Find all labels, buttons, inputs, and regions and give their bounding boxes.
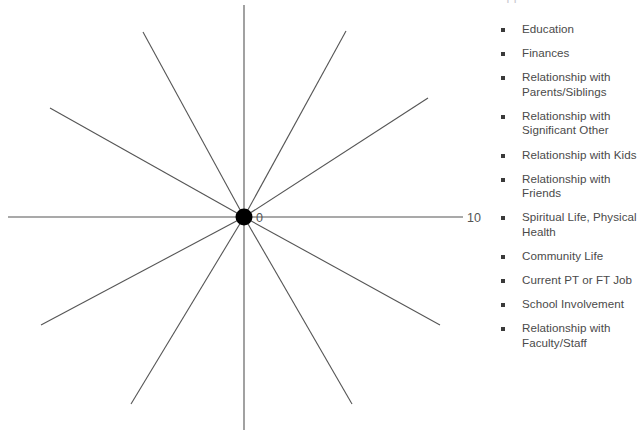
spoke-axis-12 bbox=[244, 217, 440, 325]
legend-item[interactable]: Relationship with Friends bbox=[492, 172, 638, 201]
legend-item-label: Relationship with Significant Other bbox=[522, 109, 638, 138]
legend-item-label: Relationship with Kids bbox=[522, 148, 638, 163]
origin-dot bbox=[236, 209, 253, 226]
legend-item-label: Education bbox=[522, 22, 638, 37]
legend-item-label: Relationship with Parents/Siblings bbox=[522, 70, 638, 99]
bullet-icon bbox=[501, 115, 505, 119]
chart-legend: Education Finances Relationship with Par… bbox=[492, 0, 638, 434]
spoke-axis-3 bbox=[244, 31, 346, 217]
legend-item-label: Spiritual Life, Physical Health bbox=[522, 210, 638, 239]
spoke-axis-6 bbox=[50, 108, 244, 217]
spider-chart-panel: 0 10 bbox=[0, 0, 492, 434]
legend-item[interactable]: Community Life bbox=[492, 249, 638, 264]
legend-item-label: Relationship with Faculty/Staff bbox=[522, 321, 638, 350]
legend-item[interactable]: School Involvement bbox=[492, 297, 638, 312]
legend-item[interactable]: Relationship with Significant Other bbox=[492, 109, 638, 138]
legend-item-label: Current PT or FT Job bbox=[522, 273, 638, 288]
legend-item[interactable]: Relationship with Faculty/Staff bbox=[492, 321, 638, 350]
legend-item[interactable]: Finances bbox=[492, 46, 638, 61]
bullet-icon bbox=[501, 154, 505, 158]
chart-page: Appendix A: Life Balance Wheel 0 10 bbox=[0, 0, 638, 434]
bullet-icon bbox=[501, 76, 505, 80]
bullet-icon bbox=[501, 303, 505, 307]
legend-item-label: Relationship with Friends bbox=[522, 172, 638, 201]
spoke-axis-9 bbox=[131, 217, 244, 404]
spider-chart-svg: 0 10 bbox=[0, 0, 492, 434]
spoke-group bbox=[8, 5, 463, 430]
spoke-axis-8 bbox=[41, 217, 244, 325]
legend-item-label: Finances bbox=[522, 46, 638, 61]
spoke-axis-2 bbox=[244, 98, 428, 217]
spoke-axis-11 bbox=[244, 217, 352, 404]
legend-item[interactable]: Education bbox=[492, 22, 638, 37]
legend-item[interactable]: Relationship with Parents/Siblings bbox=[492, 70, 638, 99]
max-value-label: 10 bbox=[467, 211, 481, 225]
legend-item[interactable]: Relationship with Kids bbox=[492, 148, 638, 163]
legend-item[interactable]: Spiritual Life, Physical Health bbox=[492, 210, 638, 239]
bullet-icon bbox=[501, 255, 505, 259]
center-value-label: 0 bbox=[256, 211, 263, 225]
bullet-icon bbox=[501, 28, 505, 32]
bullet-icon bbox=[501, 216, 505, 220]
legend-item-label: Community Life bbox=[522, 249, 638, 264]
bullet-icon bbox=[501, 178, 505, 182]
legend-item[interactable]: Current PT or FT Job bbox=[492, 273, 638, 288]
bullet-icon bbox=[501, 279, 505, 283]
legend-item-label: School Involvement bbox=[522, 297, 638, 312]
bullet-icon bbox=[501, 327, 505, 331]
bullet-icon bbox=[501, 52, 505, 56]
